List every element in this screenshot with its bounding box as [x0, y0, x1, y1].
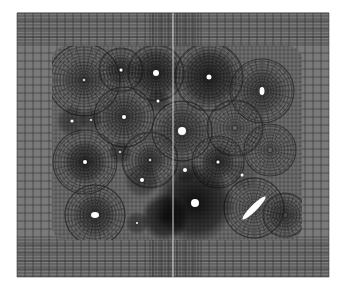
- hole: [149, 159, 151, 161]
- refinement-zone: [141, 193, 189, 241]
- hole: [122, 115, 126, 119]
- unstructured-region: [48, 43, 307, 245]
- hole: [260, 87, 265, 95]
- hole: [83, 160, 87, 164]
- hole: [140, 178, 144, 182]
- hole: [153, 70, 159, 76]
- hole: [183, 168, 187, 172]
- mesh-figure: [0, 0, 346, 285]
- hole: [157, 100, 160, 103]
- hole: [71, 120, 74, 123]
- hole: [178, 127, 186, 135]
- hole: [191, 199, 199, 207]
- hole: [241, 174, 244, 177]
- finite-element-mesh: [0, 0, 346, 285]
- refinement-zone: [267, 197, 303, 233]
- hole: [217, 161, 220, 164]
- hole: [136, 222, 138, 224]
- hole: [207, 75, 212, 80]
- hole: [83, 79, 85, 81]
- hole: [90, 119, 92, 121]
- hole: [119, 151, 121, 153]
- hole: [91, 212, 99, 218]
- hole: [120, 69, 123, 72]
